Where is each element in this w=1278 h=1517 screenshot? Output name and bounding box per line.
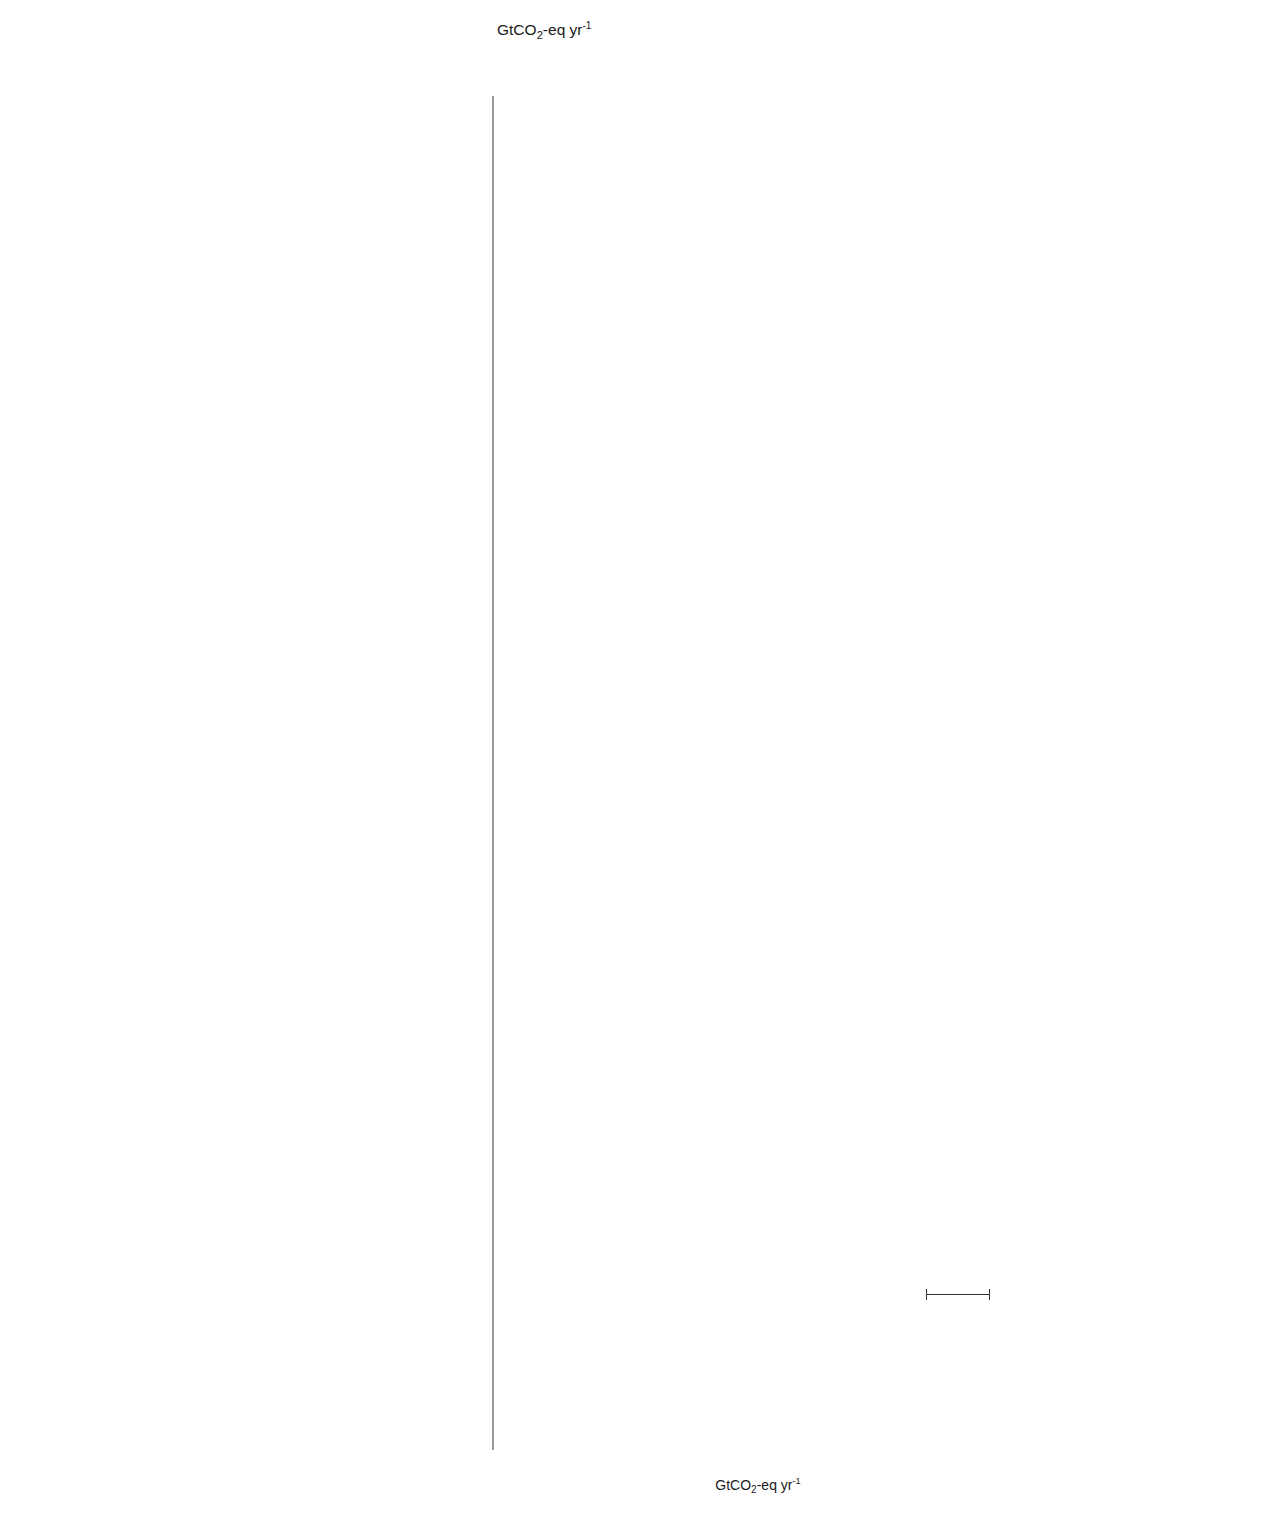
- legend: [922, 1038, 1272, 1045]
- y-axis-line: [492, 96, 494, 1450]
- uncertainty-note: [922, 1285, 1274, 1305]
- chart-title: GtCO2-eq yr-1: [497, 20, 592, 41]
- uncertainty-range-icon: [922, 1285, 994, 1305]
- x-axis-label: GtCO2-eq yr-1: [715, 1476, 800, 1495]
- chart-title-unit: GtCO2-eq yr-1: [497, 21, 592, 38]
- mitigation-options-chart: GtCO2-eq yr-1 GtCO2-eq yr-1: [0, 0, 1278, 1517]
